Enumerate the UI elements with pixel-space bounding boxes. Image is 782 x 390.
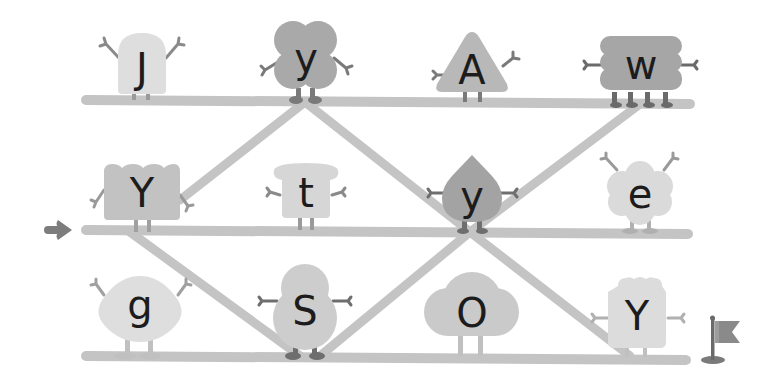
rail-top (86, 100, 690, 104)
character-y-top[interactable]: y (261, 21, 352, 104)
character-t-middle[interactable]: t (267, 163, 345, 230)
start-arrow-icon (44, 220, 72, 240)
letter-label: O (456, 290, 487, 336)
maze-board: J y A (0, 0, 782, 390)
letter-label: y (294, 35, 318, 81)
letter-label: J (133, 45, 148, 91)
character-Y-bottom[interactable]: Y (592, 277, 684, 357)
letter-label: t (298, 170, 314, 216)
letter-label: y (460, 173, 484, 219)
letter-label: w (625, 42, 658, 88)
letter-label: Y (129, 170, 155, 216)
letter-label: e (628, 171, 653, 217)
character-y-middle[interactable]: y (428, 155, 517, 234)
rail-middle (86, 230, 688, 234)
character-J-top[interactable]: J (100, 33, 184, 100)
character-A-top[interactable]: A (433, 32, 519, 102)
letter-label: Y (624, 293, 650, 339)
character-g-bottom[interactable]: g (91, 276, 191, 360)
letter-label: g (127, 282, 152, 328)
character-O-bottom[interactable]: O (424, 272, 519, 356)
goal-flag-icon (701, 316, 740, 365)
letter-label: A (458, 47, 486, 93)
character-Y-middle[interactable]: Y (91, 164, 193, 232)
rail-bottom (86, 356, 686, 360)
character-w-top[interactable]: w (584, 36, 697, 108)
character-e-middle[interactable]: e (601, 153, 678, 234)
letter-label: S (292, 288, 317, 334)
